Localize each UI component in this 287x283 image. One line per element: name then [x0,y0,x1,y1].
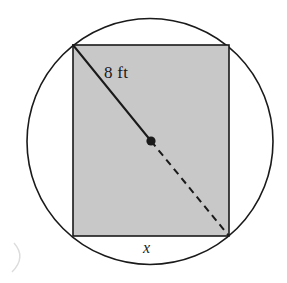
geometry-figure: 8 ft x [0,0,287,283]
base-side-label: x [143,240,150,256]
center-point-marker [146,136,155,145]
scan-artifact-mark [12,243,20,272]
diagonal-length-label: 8 ft [104,64,128,81]
